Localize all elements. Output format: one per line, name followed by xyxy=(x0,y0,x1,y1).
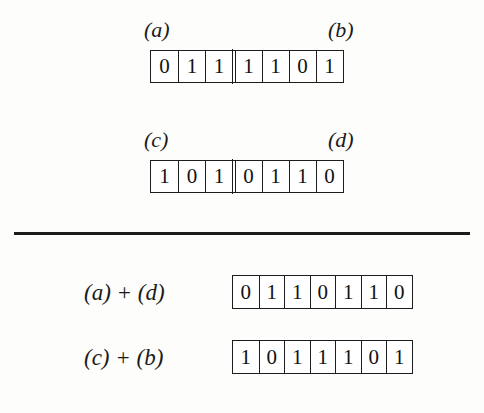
bit-cell: 1 xyxy=(151,161,178,192)
bit-cell: 1 xyxy=(289,161,316,192)
bit-cell: 0 xyxy=(361,341,387,373)
label-d: (d) xyxy=(328,129,354,151)
bit-cell: 1 xyxy=(335,276,361,308)
bit-cell: 1 xyxy=(361,276,387,308)
bit-strip-ab: 0111101 xyxy=(150,50,344,83)
bit-cell: 1 xyxy=(335,341,361,373)
bit-cell: 1 xyxy=(178,51,205,82)
bit-cell: 1 xyxy=(284,341,310,373)
bit-cell: 0 xyxy=(316,161,343,192)
label-b: (b) xyxy=(328,19,354,41)
bit-cell: 0 xyxy=(178,161,205,192)
bit-cell: 1 xyxy=(235,51,262,82)
bit-cell: 0 xyxy=(310,276,336,308)
bit-cell: 0 xyxy=(289,51,316,82)
horizontal-rule xyxy=(14,232,470,235)
crossover-figure: (a) (b) 0111101 (c) (d) 1010110 (a) + (d… xyxy=(0,0,484,413)
bit-cell: 1 xyxy=(205,161,232,192)
bit-cell: 1 xyxy=(262,161,289,192)
offspring-row-ad: (a) + (d) 0110110 xyxy=(0,272,484,312)
bit-cell: 1 xyxy=(259,276,285,308)
bit-cell: 0 xyxy=(151,51,178,82)
bit-cell: 0 xyxy=(235,161,262,192)
offspring-label-cb: (c) + (b) xyxy=(84,346,216,369)
bit-cell: 1 xyxy=(262,51,289,82)
bit-cell: 0 xyxy=(259,341,285,373)
bit-strip-ad: 0110110 xyxy=(232,275,413,309)
parent-row-ab: (a) (b) 0111101 xyxy=(150,50,344,83)
parent-row-cd: (c) (d) 1010110 xyxy=(150,160,344,193)
bit-cell: 1 xyxy=(386,341,412,373)
label-c: (c) xyxy=(144,129,168,151)
offspring-label-ad: (a) + (d) xyxy=(84,281,216,304)
offspring-row-cb: (c) + (b) 1011101 xyxy=(0,337,484,377)
bit-cell: 0 xyxy=(386,276,412,308)
bit-strip-cb: 1011101 xyxy=(232,340,413,374)
bit-cell: 1 xyxy=(284,276,310,308)
bit-cell: 0 xyxy=(233,276,259,308)
label-a: (a) xyxy=(144,19,170,41)
bit-strip-cd: 1010110 xyxy=(150,160,344,193)
bit-cell: 1 xyxy=(205,51,232,82)
bit-cell: 1 xyxy=(233,341,259,373)
bit-cell: 1 xyxy=(310,341,336,373)
bit-cell: 1 xyxy=(316,51,343,82)
